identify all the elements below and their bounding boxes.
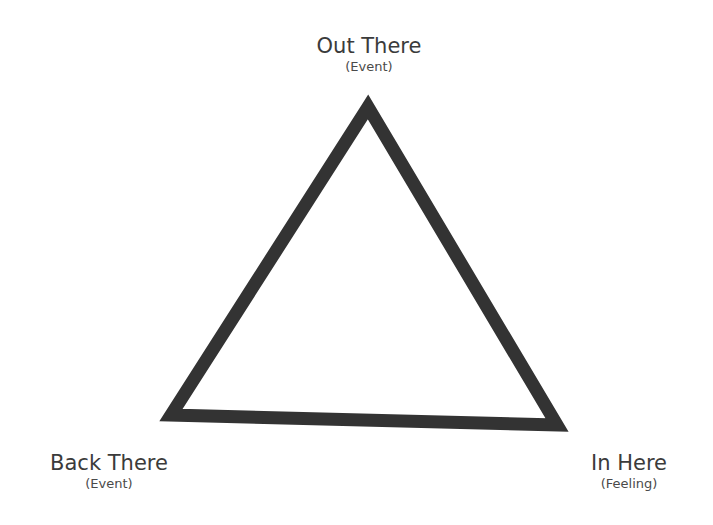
sublabel-event-top: (Event) (317, 59, 422, 75)
sublabel-event-bottom-left: (Event) (50, 476, 168, 492)
label-out-there: Out There (317, 34, 422, 58)
sublabel-feeling: (Feeling) (591, 476, 667, 492)
triangle-shape (171, 107, 557, 425)
vertex-label-bottom-left: Back There (Event) (50, 451, 168, 492)
vertex-label-bottom-right: In Here (Feeling) (591, 451, 667, 492)
label-back-there: Back There (50, 451, 168, 475)
triangle-diagram (0, 0, 713, 525)
vertex-label-top: Out There (Event) (317, 34, 422, 75)
label-in-here: In Here (591, 451, 667, 475)
